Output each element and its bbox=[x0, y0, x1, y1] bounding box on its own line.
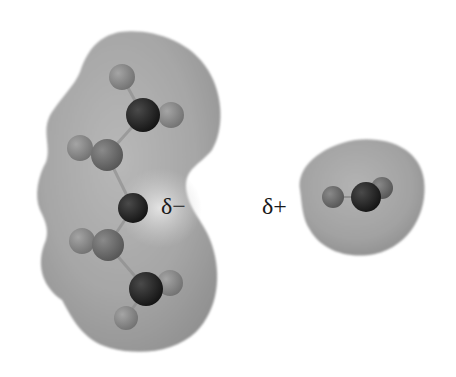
atom-c bbox=[91, 139, 123, 171]
partial-negative-label: δ− bbox=[161, 194, 186, 218]
atom-h bbox=[69, 228, 95, 254]
diagram-canvas bbox=[0, 0, 456, 377]
partial-positive-label: δ+ bbox=[262, 194, 287, 218]
atom-o bbox=[118, 193, 148, 223]
atom-h bbox=[322, 186, 344, 208]
atom-c bbox=[92, 229, 124, 261]
atom-h bbox=[109, 64, 135, 90]
atom-h bbox=[114, 306, 138, 330]
atom-h bbox=[158, 102, 184, 128]
molecular-diagram: δ− δ+ bbox=[0, 0, 456, 377]
atom-h bbox=[67, 135, 93, 161]
atom-c bbox=[129, 272, 163, 306]
atom-heavy bbox=[351, 182, 381, 212]
atom-c bbox=[126, 98, 160, 132]
